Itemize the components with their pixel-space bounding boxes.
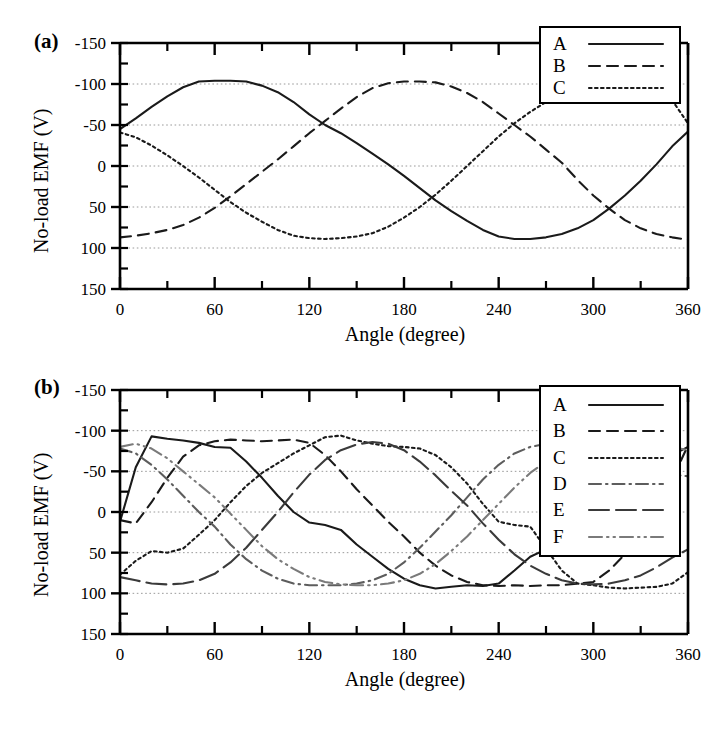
y-tick-label: 0 bbox=[98, 503, 107, 522]
panel-b-legend: ABCDEF bbox=[539, 385, 681, 557]
series-line-b bbox=[120, 82, 688, 240]
legend-label-a: A bbox=[541, 33, 587, 55]
y-tick-label: 150 bbox=[81, 625, 107, 644]
legend-line-sample-d bbox=[587, 478, 665, 490]
x-tick-label: 0 bbox=[116, 300, 125, 319]
x-tick-label: 240 bbox=[486, 300, 512, 319]
legend-item-c: C bbox=[541, 445, 679, 471]
legend-line-sample-a bbox=[587, 399, 665, 411]
y-tick-label: 50 bbox=[89, 544, 106, 563]
x-tick-label: 360 bbox=[675, 645, 701, 664]
legend-line-sample-c bbox=[587, 452, 665, 464]
x-tick-label: 120 bbox=[297, 300, 323, 319]
y-tick-label: 0 bbox=[98, 157, 107, 176]
x-tick-label: 300 bbox=[581, 645, 607, 664]
x-tick-label: 240 bbox=[486, 645, 512, 664]
x-tick-label: 300 bbox=[581, 300, 607, 319]
x-tick-label: 60 bbox=[206, 300, 223, 319]
legend-item-f: F bbox=[541, 524, 679, 550]
y-tick-label: -50 bbox=[83, 116, 106, 135]
legend-item-a: A bbox=[541, 392, 679, 418]
legend-label-a: A bbox=[541, 394, 587, 416]
y-tick-label: -100 bbox=[75, 75, 106, 94]
series-line-a bbox=[120, 81, 688, 239]
legend-label-d: D bbox=[541, 473, 587, 495]
x-tick-label: 180 bbox=[391, 645, 417, 664]
y-tick-label: 50 bbox=[89, 198, 106, 217]
legend-label-c: C bbox=[541, 447, 587, 469]
x-tick-label: 360 bbox=[675, 300, 701, 319]
legend-item-e: E bbox=[541, 497, 679, 523]
y-tick-label: 100 bbox=[81, 584, 107, 603]
legend-label-e: E bbox=[541, 499, 587, 521]
y-tick-label: 100 bbox=[81, 239, 107, 258]
legend-label-c: C bbox=[541, 77, 587, 99]
legend-label-b: B bbox=[541, 420, 587, 442]
legend-line-sample-c bbox=[587, 82, 665, 94]
legend-item-b: B bbox=[541, 418, 679, 444]
legend-item-c: C bbox=[541, 77, 679, 99]
y-tick-label: -50 bbox=[83, 462, 106, 481]
x-tick-label: 120 bbox=[297, 645, 323, 664]
legend-item-b: B bbox=[541, 55, 679, 77]
y-tick-label: -100 bbox=[75, 422, 106, 441]
legend-item-d: D bbox=[541, 471, 679, 497]
legend-label-b: B bbox=[541, 55, 587, 77]
y-tick-label: -150 bbox=[75, 34, 106, 53]
legend-item-a: A bbox=[541, 33, 679, 55]
legend-line-sample-b bbox=[587, 60, 665, 72]
legend-line-sample-b bbox=[587, 425, 665, 437]
panel-a: (a) No-load EMF (V) Angle (degree) 15010… bbox=[0, 0, 727, 365]
panel-a-legend: ABC bbox=[539, 26, 681, 104]
panel-b: (b) No-load EMF (V) Angle (degree) 15010… bbox=[0, 352, 727, 729]
figure-no-load-emf: (a) No-load EMF (V) Angle (degree) 15010… bbox=[0, 0, 727, 729]
x-tick-label: 180 bbox=[391, 300, 417, 319]
legend-line-sample-e bbox=[587, 504, 665, 516]
x-tick-label: 0 bbox=[116, 645, 125, 664]
y-tick-label: -150 bbox=[75, 381, 106, 400]
legend-label-f: F bbox=[541, 526, 587, 548]
x-tick-label: 60 bbox=[206, 645, 223, 664]
legend-line-sample-f bbox=[587, 531, 665, 543]
legend-line-sample-a bbox=[587, 38, 665, 50]
series-line-c bbox=[120, 82, 688, 239]
y-tick-label: 150 bbox=[81, 280, 107, 299]
